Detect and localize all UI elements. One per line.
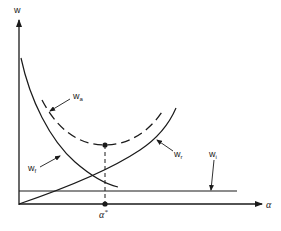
optimum-label: α* xyxy=(99,208,108,220)
curve-w-a-label: wa xyxy=(72,91,84,102)
diagram-figure: w α wi wf wr wa α* xyxy=(0,0,281,231)
curve-w-i-label: wi xyxy=(208,149,217,160)
curve-w-r: wr xyxy=(19,108,183,204)
curve-w-f-label: wf xyxy=(27,163,37,174)
x-axis: α xyxy=(19,199,272,210)
curve-w-f: wf xyxy=(21,58,118,187)
y-axis: w xyxy=(13,5,21,205)
curve-w-r-label: wr xyxy=(173,149,183,160)
optimum-point-on-axis xyxy=(102,201,107,206)
y-axis-label: w xyxy=(13,5,21,15)
curve-w-a: wa xyxy=(42,91,162,145)
x-axis-label: α xyxy=(266,199,272,210)
curve-w-i: wi xyxy=(19,149,237,191)
optimum-point-on-curve xyxy=(102,142,107,147)
